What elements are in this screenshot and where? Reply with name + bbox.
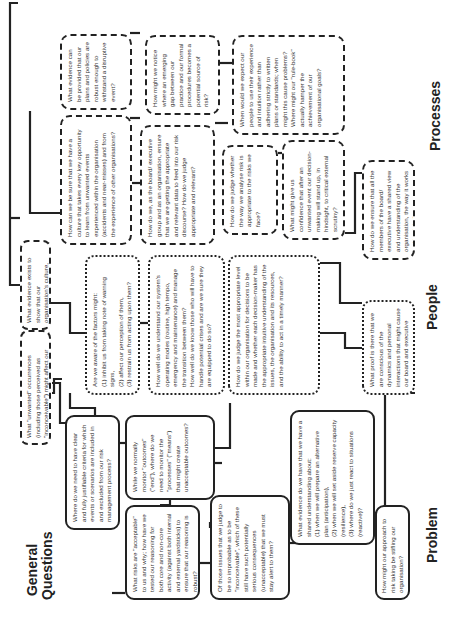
people-box-perception-factors: Are we aware of the factors might: (1) i… [85,255,140,395]
process-box-relevant-data: How do we, as the board/ executive group… [140,125,215,245]
problem-box-monitor-processes: While we normally monitor "outcomes" ("e… [125,415,215,500]
process-box-text: What evidence can be provided that our p… [66,42,117,102]
people-box-decision-level: How do we judge the most appropriate lev… [228,255,320,395]
people-box-operating-modes: How well do we understand our system's o… [148,255,225,395]
problem-box-text: How might our approach to risk taking be… [380,512,406,593]
label-processes: Processes [428,81,443,151]
process-box-text: How might we notice where an emerging ga… [151,43,211,107]
problem-box-text: While we normally monitor "outcomes" ("e… [131,423,191,492]
general-box-unwanted-occurrences: What "unwanted" occurrences (including t… [20,330,51,445]
risk-questions-mindmap: What evidence can be provided that our p… [0,0,457,623]
process-box-risk-analysis-fit: How do we judge whether the way we analy… [222,145,278,235]
label-people: People [425,284,440,330]
process-box-text: How can we be sure that we have a cultur… [66,123,117,237]
process-box-text: How do we ensure that all the members of… [368,168,415,252]
people-box-board-dynamics: What proof is there that we are consciou… [362,300,415,395]
process-box-intuition-vs-rules: When would we expect our people to use t… [232,35,345,135]
general-box-text: What evidence exists to show that our or… [25,247,51,323]
people-box-text: How well do we understand our system's o… [154,263,214,387]
process-box-text: How do we judge whether the way we analy… [228,153,262,227]
general-box-culture-evidence: What evidence exists to show that our or… [20,240,51,330]
problem-box-stifling-approach: How might our approach to risk taking be… [375,505,410,600]
people-box-text: Are we aware of the factors might: (1) i… [91,263,134,387]
people-box-text: How do we judge the most appropriate lev… [234,263,285,387]
process-box-shared-board-view: How do we ensure that all the members of… [362,160,415,260]
process-box-learning-culture: How can we be sure that we have a cultur… [60,115,132,245]
problem-box-text: What risks are "acceptable" to us and wh… [131,513,199,592]
problem-box-text: What evidence do we have that we have a … [296,418,364,537]
process-box-text: When would we expect our people to use t… [238,43,323,127]
general-box-text: What "unwanted" occurrences (including t… [25,337,51,438]
process-box-plans-robustness: What evidence can be provided that our p… [60,34,132,110]
problem-box-text: Where do we need to have clear and fully… [71,423,114,522]
label-general-questions: General Questions [25,540,56,600]
process-box-hindsight-scrutiny: What might give us confidence that after… [282,140,345,240]
problem-box-shared-understanding: What evidence do we have that we have a … [290,410,375,545]
problem-box-text: Of those issues that we judge to be so i… [216,503,276,592]
problem-box-inconceivable-issues: Of those issues that we judge to be so i… [210,495,290,600]
process-box-text: How do we, as the board/ executive group… [146,133,197,237]
process-box-emerging-gap: How might we notice where an emerging ga… [145,35,220,115]
process-box-text: What might give us confidence that after… [288,148,339,232]
people-box-text: What proof is there that we are consciou… [368,308,415,387]
problem-box-inclusion-criteria: Where do we need to have clear and fully… [65,415,120,530]
problem-box-acceptable-risks: What risks are "acceptable" to us and wh… [125,505,200,600]
label-problem: Problem [425,507,440,563]
